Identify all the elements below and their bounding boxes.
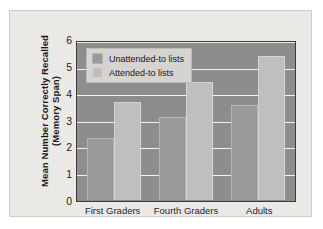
x-tick-label: First Graders [76,205,149,223]
x-axis-tick-labels: First GradersFourth GradersAdults [76,205,296,223]
bar[interactable] [186,82,213,200]
legend-label-unattended: Unattended-to lists [109,54,184,64]
bar[interactable] [87,138,114,200]
bar[interactable] [231,105,258,200]
y-tick-label: 0 [50,195,72,207]
y-tick-label: 2 [50,141,72,153]
y-tick-label: 4 [50,88,72,100]
y-tick-label: 3 [50,115,72,127]
legend-item: Attended-to lists [92,67,184,78]
legend-label-attended: Attended-to lists [109,68,174,78]
plot-area: Unattended-to lists Attended-to lists [76,41,296,202]
chart-legend: Unattended-to lists Attended-to lists [86,48,192,83]
plot-area-wrapper: Unattended-to lists Attended-to lists [76,41,296,202]
figure-panel: Mean Number Correctly Recalled (Memory S… [9,10,312,217]
y-tick-label: 5 [50,61,72,73]
bar-group [222,43,294,200]
x-tick-label: Adults [223,205,296,223]
legend-swatch-unattended [92,53,103,64]
y-tick-label: 6 [50,34,72,46]
bar[interactable] [258,56,285,200]
bar[interactable] [114,102,141,200]
legend-item: Unattended-to lists [92,53,184,64]
x-tick-label: Fourth Graders [149,205,222,223]
bar[interactable] [159,117,186,200]
y-tick-label: 1 [50,168,72,180]
chart-figure: Mean Number Correctly Recalled (Memory S… [0,0,323,229]
legend-swatch-attended [92,67,103,78]
